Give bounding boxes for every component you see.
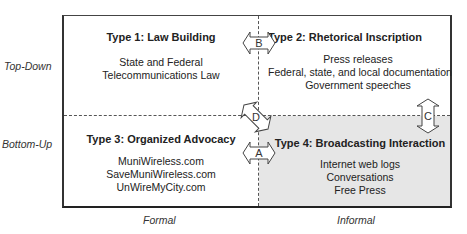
row-label-top-down: Top-Down — [4, 60, 51, 72]
quadrant-type-4: Type 4: Broadcasting Interaction Interne… — [270, 137, 450, 197]
quadrant-item: Internet web logs — [270, 158, 450, 171]
arrow-label-d: D — [252, 111, 260, 123]
quadrant-item: UnWireMyCity.com — [64, 181, 258, 194]
quadrant-item: Press releases — [268, 53, 448, 66]
arrow-label-c: C — [424, 110, 432, 122]
quadrant-item: Telecommunications Law — [64, 69, 258, 82]
row-label-bottom-up: Bottom-Up — [2, 138, 52, 150]
double-arrow-a-icon: A — [242, 140, 276, 166]
quadrant-item: Government speeches — [268, 79, 448, 92]
quadrant-title: Type 3: Organized Advocacy — [64, 133, 258, 146]
arrow-label-a: A — [255, 147, 263, 159]
quadrant-title: Type 4: Broadcasting Interaction — [270, 137, 450, 150]
quadrant-item: Conversations — [270, 171, 450, 184]
column-label-informal: Informal — [337, 214, 375, 226]
double-arrow-b-icon: B — [242, 30, 276, 56]
quadrant-item: SaveMuniWireless.com — [64, 168, 258, 181]
quadrant-item: Federal, state, and local documentation — [268, 66, 448, 79]
quadrant-item: Free Press — [270, 184, 450, 197]
quadrant-item: State and Federal — [64, 56, 258, 69]
quadrant-type-2: Type 2: Rhetorical Inscription Press rel… — [268, 31, 448, 92]
double-arrow-d-icon: D — [238, 99, 274, 135]
quadrant-title: Type 2: Rhetorical Inscription — [268, 31, 448, 44]
quadrant-type-1: Type 1: Law Building State and Federal T… — [64, 31, 258, 82]
column-label-formal: Formal — [143, 214, 176, 226]
quadrant-type-3: Type 3: Organized Advocacy MuniWireless.… — [64, 133, 258, 194]
double-arrow-c-icon: C — [415, 98, 441, 134]
quadrant-title: Type 1: Law Building — [64, 31, 258, 44]
arrow-label-b: B — [255, 37, 262, 49]
quadrant-item: MuniWireless.com — [64, 155, 258, 168]
